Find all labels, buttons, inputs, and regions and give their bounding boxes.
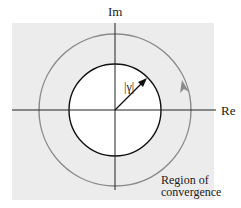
imaginary-axis-label: Im [108, 5, 122, 18]
region-label-line2: convergence [161, 185, 221, 199]
radius-label: |γ| [124, 81, 134, 93]
region-of-convergence-label: Region of convergence [161, 174, 221, 198]
real-axis-label: Re [221, 104, 235, 117]
